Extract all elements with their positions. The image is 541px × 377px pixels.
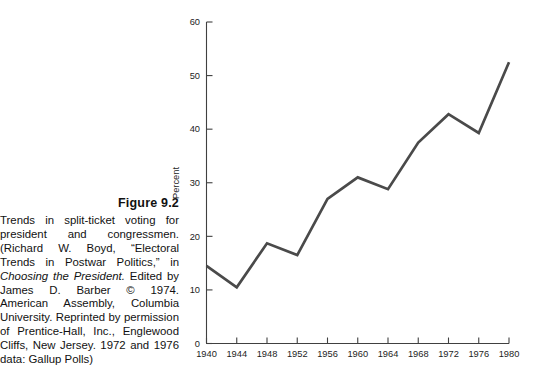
x-axis-tick-marks (207, 338, 510, 344)
split-ticket-voting-line (207, 62, 510, 287)
y-tick-label: 20 (190, 232, 200, 242)
x-tick-label: 1976 (468, 349, 489, 359)
caption-segment-1: Trends in split-ticket voting for presid… (0, 214, 179, 268)
x-axis-tick-labels: 1940194419481952195619601964196819721976… (196, 349, 519, 359)
y-tick-label: 30 (190, 178, 200, 188)
x-tick-label: 1948 (257, 349, 278, 359)
x-tick-label: 1956 (317, 349, 338, 359)
y-tick-label: 50 (190, 71, 200, 81)
y-axis-tick-marks (207, 22, 213, 344)
x-tick-label: 1940 (196, 349, 217, 359)
figure-caption-text: Trends in split-ticket voting for presid… (0, 214, 181, 367)
y-axis-title: Percent (171, 167, 181, 199)
y-axis-tick-labels: 0102030405060 (190, 17, 200, 349)
x-tick-label: 1952 (287, 349, 308, 359)
y-tick-label: 10 (190, 285, 200, 295)
x-tick-label: 1964 (378, 349, 399, 359)
y-tick-label: 60 (190, 17, 200, 27)
x-tick-label: 1960 (347, 349, 368, 359)
caption-segment-3: Edited by James D. Barber © 1974. Americ… (0, 270, 179, 365)
line-chart-figure: Percent 0102030405060 194019441948195219… (168, 0, 541, 377)
x-tick-label: 1972 (438, 349, 459, 359)
x-tick-label: 1944 (226, 349, 247, 359)
caption-segment-italic-title: Choosing the President. (0, 270, 125, 282)
y-tick-label: 0 (195, 339, 200, 349)
figure-caption-block: Figure 9.2 Trends in split-ticket voting… (0, 196, 181, 367)
y-tick-label: 40 (190, 124, 200, 134)
x-tick-label: 1980 (499, 349, 520, 359)
chart-svg: Percent 0102030405060 194019441948195219… (168, 0, 541, 377)
x-tick-label: 1968 (408, 349, 429, 359)
figure-number-heading: Figure 9.2 (0, 196, 181, 210)
